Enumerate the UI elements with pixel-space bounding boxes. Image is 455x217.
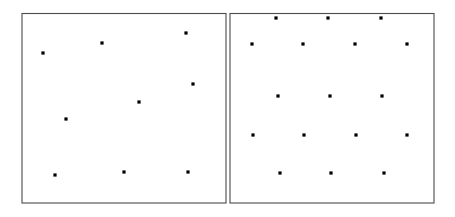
tessellation-canvas — [0, 0, 455, 217]
left-panel-border — [22, 14, 226, 204]
seed-point — [186, 170, 189, 173]
seed-point — [274, 16, 277, 19]
seed-point — [41, 51, 44, 54]
seed-point — [380, 94, 383, 97]
irregular-voronoi-panel — [22, 14, 226, 204]
seed-point — [301, 42, 304, 45]
seed-point — [405, 133, 408, 136]
seed-point — [278, 171, 281, 174]
seed-point — [354, 133, 357, 136]
seed-point — [191, 82, 194, 85]
seed-point — [251, 133, 254, 136]
seed-point — [328, 94, 331, 97]
seed-point — [379, 16, 382, 19]
seed-point — [353, 42, 356, 45]
seed-point — [100, 41, 103, 44]
hexagonal-voronoi-panel — [230, 0, 434, 217]
seed-point — [276, 94, 279, 97]
seed-point — [250, 42, 253, 45]
seed-point — [326, 16, 329, 19]
seed-point — [184, 31, 187, 34]
seed-point — [382, 171, 385, 174]
tessellation-figure — [0, 0, 455, 217]
seed-point — [122, 170, 125, 173]
seed-point — [329, 171, 332, 174]
seed-point — [137, 100, 140, 103]
seed-point — [405, 42, 408, 45]
seed-point — [302, 133, 305, 136]
seed-point — [64, 117, 67, 120]
seed-point — [53, 173, 56, 176]
